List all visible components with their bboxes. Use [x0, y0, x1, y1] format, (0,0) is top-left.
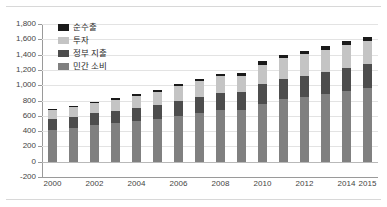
bar-segment-investment[interactable]	[258, 65, 267, 85]
bar-segment-government[interactable]	[237, 92, 246, 110]
x-axis-tick-label: 2015	[351, 180, 385, 188]
bar-segment-netexports[interactable]	[132, 94, 141, 96]
bar-segment-government[interactable]	[69, 117, 78, 128]
bar-segment-investment[interactable]	[132, 96, 141, 108]
bar-segment-consumption[interactable]	[174, 116, 183, 162]
bar-segment-government[interactable]	[90, 113, 99, 125]
bar-segment-netexports[interactable]	[258, 61, 267, 64]
bar-segment-consumption[interactable]	[321, 94, 330, 161]
bar-segment-consumption[interactable]	[195, 113, 204, 162]
bar-segment-investment[interactable]	[363, 41, 372, 64]
x-axis-tick-label: 2006	[162, 180, 196, 188]
bar-segment-consumption[interactable]	[216, 110, 225, 162]
bar-stack[interactable]	[174, 24, 183, 177]
bar-stack[interactable]	[237, 24, 246, 177]
bar-segment-consumption[interactable]	[342, 91, 351, 161]
bar-segment-consumption[interactable]	[363, 88, 372, 161]
legend-item[interactable]: 민간 소비	[58, 60, 144, 73]
bar-segment-investment[interactable]	[321, 50, 330, 72]
bar-stack[interactable]	[195, 24, 204, 177]
x-axis-tick-label: 2008	[204, 180, 238, 188]
legend-item[interactable]: 투자	[58, 34, 144, 47]
bar-segment-government[interactable]	[216, 93, 225, 110]
bar-segment-netexports[interactable]	[342, 41, 351, 45]
bar-segment-netexports[interactable]	[321, 46, 330, 50]
bar-segment-investment[interactable]	[279, 58, 288, 79]
bar-segment-consumption[interactable]	[279, 99, 288, 162]
bar-segment-government[interactable]	[48, 119, 57, 130]
bottom-divider-rule	[6, 199, 381, 200]
legend-label: 정부 지출	[73, 49, 107, 58]
legend-label: 순수출	[73, 23, 97, 32]
y-axis-tick-label: 1,000	[2, 81, 36, 89]
bar-segment-government[interactable]	[153, 105, 162, 119]
bar-stack[interactable]	[153, 24, 162, 177]
bar-segment-investment[interactable]	[48, 110, 57, 119]
bar-segment-government[interactable]	[195, 97, 204, 113]
bar-segment-government[interactable]	[258, 84, 267, 103]
y-axis-tick-label: 1,200	[2, 66, 36, 74]
bar-segment-government[interactable]	[174, 101, 183, 116]
bar-segment-investment[interactable]	[195, 81, 204, 97]
legend-item[interactable]: 순수출	[58, 21, 144, 34]
bar-segment-consumption[interactable]	[69, 128, 78, 162]
bar-segment-government[interactable]	[111, 111, 120, 123]
top-divider-rule	[6, 6, 381, 7]
bar-segment-investment[interactable]	[153, 92, 162, 105]
chart-figure: 1,8001,6001,4001,2001,0008006004002000-2…	[0, 0, 387, 207]
bar-segment-consumption[interactable]	[258, 104, 267, 162]
bar-segment-netexports[interactable]	[174, 84, 183, 86]
bar-segment-consumption[interactable]	[90, 125, 99, 162]
bar-segment-netexports[interactable]	[90, 102, 99, 103]
bar-segment-investment[interactable]	[111, 100, 120, 111]
bar-segment-netexports[interactable]	[195, 79, 204, 81]
y-axis-tick-label: -200	[2, 173, 36, 181]
bar-segment-investment[interactable]	[216, 76, 225, 93]
bar-segment-netexports[interactable]	[363, 37, 372, 42]
bar-segment-consumption[interactable]	[48, 130, 57, 162]
bar-segment-investment[interactable]	[69, 107, 78, 117]
legend-item[interactable]: 정부 지출	[58, 47, 144, 60]
bar-segment-netexports[interactable]	[69, 106, 78, 107]
bar-stack[interactable]	[342, 24, 351, 177]
legend-label: 투자	[73, 36, 89, 45]
bar-stack[interactable]	[321, 24, 330, 177]
bar-segment-consumption[interactable]	[132, 121, 141, 162]
bar-segment-netexports[interactable]	[237, 73, 246, 76]
bar-segment-netexports[interactable]	[153, 90, 162, 92]
legend-swatch-government	[58, 50, 69, 57]
legend-swatch-netexports	[58, 24, 69, 31]
x-axis-tick-label: 2010	[246, 180, 280, 188]
bar-segment-consumption[interactable]	[237, 110, 246, 162]
bar-segment-investment[interactable]	[90, 103, 99, 113]
bar-segment-investment[interactable]	[174, 86, 183, 101]
bar-stack[interactable]	[258, 24, 267, 177]
bar-segment-government[interactable]	[363, 64, 372, 88]
bar-stack[interactable]	[300, 24, 309, 177]
bar-segment-netexports[interactable]	[48, 109, 57, 110]
y-axis-tick-label: 600	[2, 112, 36, 120]
bar-stack[interactable]	[216, 24, 225, 177]
bar-segment-investment[interactable]	[237, 76, 246, 92]
bar-segment-consumption[interactable]	[111, 123, 120, 161]
bar-stack[interactable]	[279, 24, 288, 177]
bar-stack[interactable]	[48, 24, 57, 177]
y-axis-tick-label: 1,400	[2, 51, 36, 59]
legend-label: 민간 소비	[73, 62, 107, 71]
bar-segment-netexports[interactable]	[111, 98, 120, 99]
bar-segment-netexports[interactable]	[300, 51, 309, 54]
bar-segment-investment[interactable]	[300, 54, 309, 75]
x-axis-tick-label: 2004	[120, 180, 154, 188]
bar-segment-government[interactable]	[132, 108, 141, 121]
bar-stack[interactable]	[363, 24, 372, 177]
bar-segment-netexports[interactable]	[279, 55, 288, 58]
bar-segment-consumption[interactable]	[153, 119, 162, 162]
bar-segment-government[interactable]	[342, 68, 351, 91]
bar-segment-netexports[interactable]	[216, 74, 225, 76]
bar-segment-government[interactable]	[321, 72, 330, 94]
bar-segment-investment[interactable]	[342, 45, 351, 68]
bar-segment-government[interactable]	[279, 79, 288, 99]
bar-segment-government[interactable]	[300, 76, 309, 97]
y-axis-tick-label: 0	[2, 158, 36, 166]
bar-segment-consumption[interactable]	[300, 97, 309, 162]
